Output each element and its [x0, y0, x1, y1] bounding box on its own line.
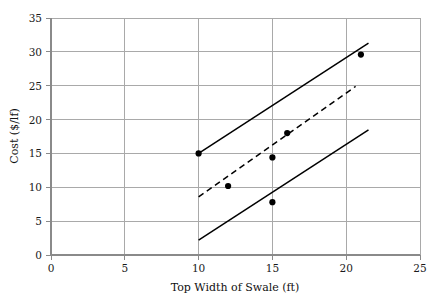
ytick-label-25: 25: [29, 80, 42, 92]
ytick-label-30: 30: [29, 46, 42, 58]
y-axis-title: Cost ($/lf): [8, 108, 21, 163]
ytick-label-0: 0: [35, 249, 42, 261]
chart-figure: 35 30 25 20 15 10 5 0 0 5 10 15 20 25 To…: [0, 0, 438, 305]
ytick-label-5: 5: [35, 215, 42, 227]
data-point-6: [358, 52, 364, 58]
xtick-label-20: 20: [340, 262, 353, 274]
data-point-3: [269, 154, 275, 160]
data-point-1: [196, 150, 202, 156]
xtick-label-25: 25: [413, 262, 426, 274]
ytick-label-35: 35: [29, 12, 42, 24]
chart-background: [0, 0, 438, 305]
xtick-label-15: 15: [266, 262, 279, 274]
xtick-label-5: 5: [121, 262, 128, 274]
data-point-5: [284, 130, 290, 136]
data-point-4: [269, 199, 275, 205]
ytick-label-20: 20: [29, 114, 42, 126]
xtick-label-10: 10: [192, 262, 205, 274]
x-axis-title: Top Width of Swale (ft): [171, 281, 300, 294]
ytick-label-15: 15: [29, 147, 42, 159]
data-point-2: [225, 183, 231, 189]
xtick-label-0: 0: [48, 262, 55, 274]
scatter-chart-svg: 35 30 25 20 15 10 5 0 0 5 10 15 20 25 To…: [0, 0, 438, 305]
ytick-label-10: 10: [29, 181, 42, 193]
